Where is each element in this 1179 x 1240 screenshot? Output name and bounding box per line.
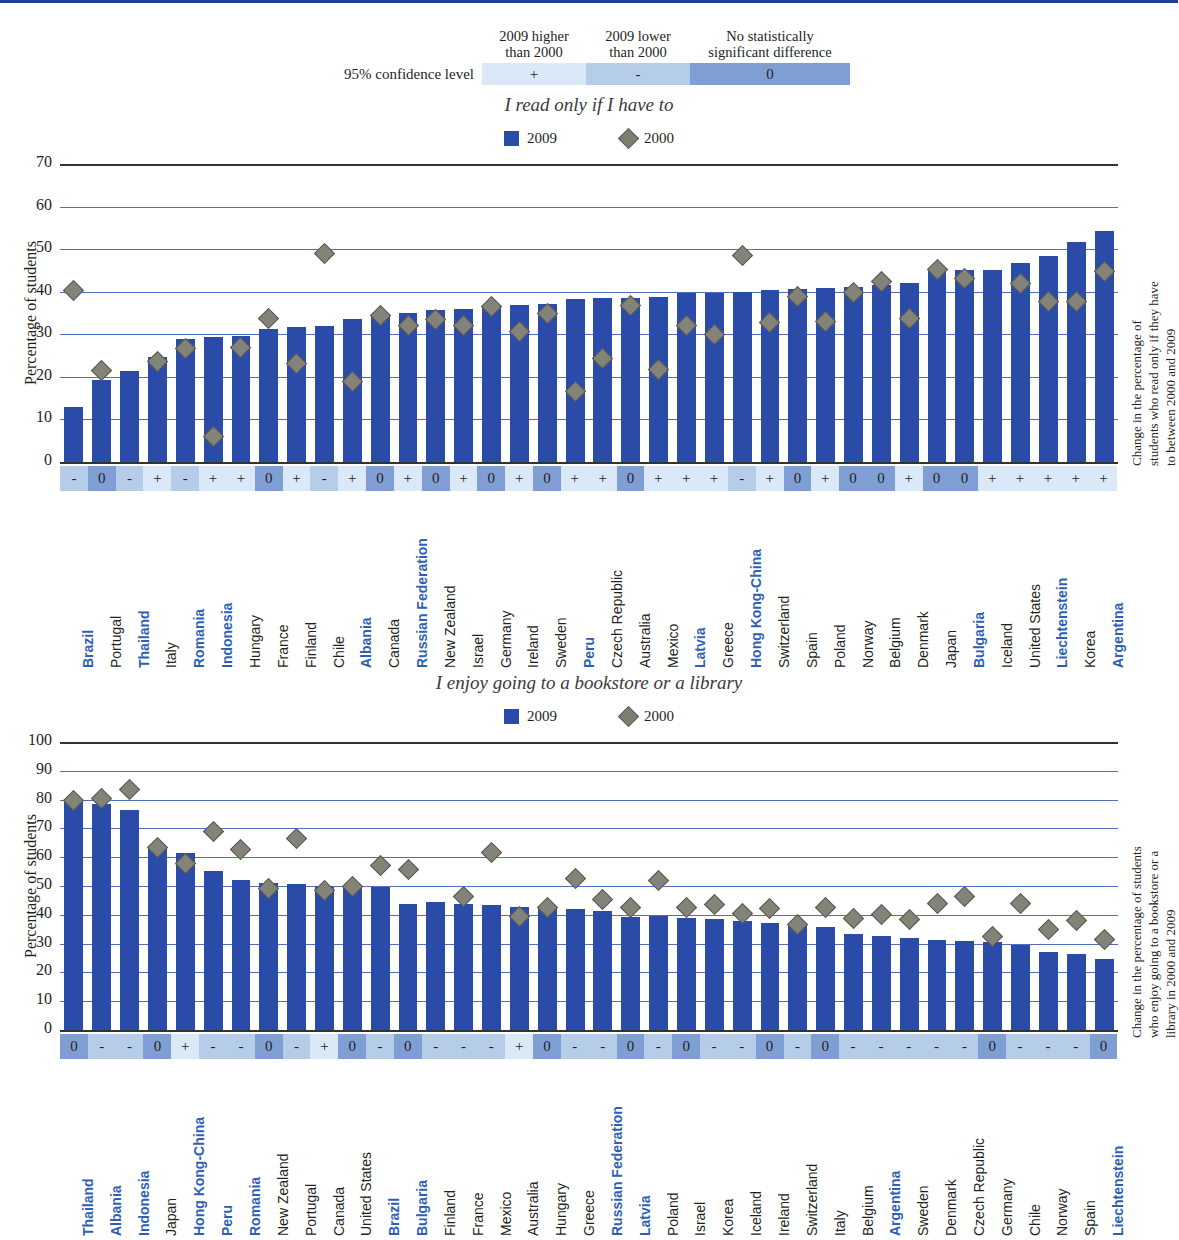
category-label: Albania [358,617,374,668]
significance-cell: - [450,1034,478,1059]
significance-cell: - [1006,1034,1034,1059]
bar [315,326,334,462]
key-row-label: 95% confidence level [330,63,482,85]
category-label: Chile [1027,1204,1043,1236]
diamond-marker [704,894,725,915]
category-label: Canada [386,619,402,668]
y-axis-tick: 0 [18,451,52,469]
bar [593,298,612,462]
significance-cell: + [394,466,422,491]
significance-cell: + [895,466,923,491]
bar [454,904,473,1030]
significance-cell: 0 [672,1034,700,1059]
category-label: Romania [191,609,207,668]
category-label: Spain [804,632,820,668]
category-label: Spain [1082,1200,1098,1236]
significance-cell: + [143,466,171,491]
category-label: Argentina [1110,603,1126,668]
bar [649,916,668,1030]
category-label: Hungary [247,615,263,668]
diamond-marker [1010,893,1031,914]
category-label: Brazil [386,1198,402,1236]
diamond-marker [1066,910,1087,931]
bar [983,270,1002,462]
significance-cell: + [644,466,672,491]
significance-cell: + [672,466,700,491]
significance-cell: + [171,1034,199,1059]
significance-cell: + [1062,466,1090,491]
category-label: Liechtenstein [1054,578,1070,668]
category-label: Italy [163,642,179,668]
diamond-marker [899,909,920,930]
diamond-marker [1093,929,1114,950]
diamond-marker [397,859,418,880]
y-axis-tick: 20 [18,961,52,979]
significance-cell: + [1006,466,1034,491]
category-label: Albania [108,1185,124,1236]
category-label: Japan [943,630,959,668]
chart2-legend-2009-label: 2009 [527,708,557,725]
key-header-lower: 2009 lower than 2000 [586,28,690,60]
category-label: Latvia [637,1196,653,1236]
category-label: Denmark [943,1179,959,1236]
category-label: Latvia [692,628,708,668]
significance-cell: 0 [867,466,895,491]
category-label: Indonesia [219,603,235,668]
category-label: Australia [637,614,653,668]
chart1-legend-2009: 2009 [504,130,557,147]
bar [259,329,278,462]
category-label: Australia [525,1182,541,1236]
category-label: Sweden [915,1185,931,1236]
y-axis-tick: 100 [18,731,52,749]
category-label: Hungary [553,1183,569,1236]
diamond-swatch-icon [618,706,639,727]
significance-cell: 0 [88,466,116,491]
chart1-category-labels: BrazilPortugalThailandItalyRomaniaIndone… [60,496,1118,676]
bar [955,941,974,1030]
significance-cell: + [310,1034,338,1059]
significance-cell: 0 [617,466,645,491]
bar [844,287,863,462]
chart2-significance-row: 0--0+--0-+0-0---+0--0-0--0-0-----0---0 [60,1034,1118,1059]
y-axis-tick: 0 [18,1019,52,1037]
category-label: Czech Republic [971,1138,987,1236]
significance-cell: + [811,466,839,491]
bar [705,919,724,1030]
bar [92,380,111,462]
bar [788,926,807,1030]
significance-cell: 0 [143,1034,171,1059]
diamond-marker [954,885,975,906]
bar [788,289,807,462]
significance-cell: - [867,1034,895,1059]
diamond-marker [648,870,669,891]
y-axis-tick: 40 [18,281,52,299]
diamond-marker [119,779,140,800]
key-header-nodiff: No statistically significant difference [690,28,850,60]
category-label: Poland [665,1192,681,1236]
diamond-marker [63,280,84,301]
category-label: Mexico [498,1192,514,1236]
chart2-category-labels: ThailandAlbaniaIndonesiaJapanHong Kong-C… [60,1064,1118,1240]
category-label: Portugal [303,1184,319,1236]
bar [482,307,501,462]
key-header-higher: 2009 higher than 2000 [482,28,586,60]
significance-cell: - [88,1034,116,1059]
category-label: Japan [163,1198,179,1236]
significance-cell: - [589,1034,617,1059]
diamond-swatch-icon [618,128,639,149]
category-label: Thailand [80,1178,96,1236]
bar-swatch-icon [504,131,519,146]
category-label: Portugal [108,616,124,668]
category-label: Sweden [553,617,569,668]
category-label: Korea [1082,631,1098,668]
category-label: Switzerland [776,596,792,668]
chart1-legend-2000-label: 2000 [644,130,674,147]
significance-cell: - [116,1034,144,1059]
bar [1039,952,1058,1030]
significance-cell: - [227,1034,255,1059]
category-label: United States [1027,584,1043,668]
chart1-plot-area: 010203040506070 [60,164,1118,462]
bar [621,298,640,462]
diamond-marker [258,308,279,329]
bar [733,921,752,1030]
